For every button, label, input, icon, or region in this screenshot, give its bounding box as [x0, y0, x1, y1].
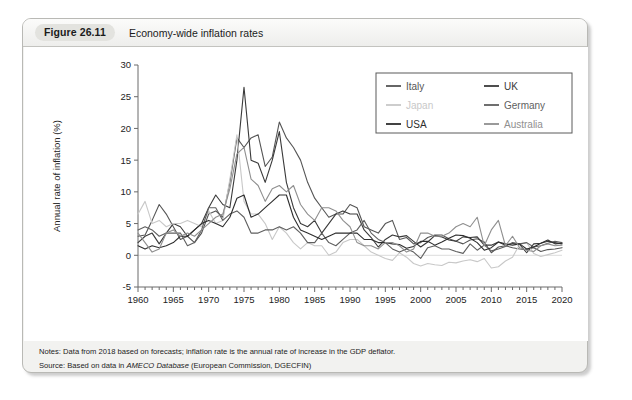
- figure-title: Economy-wide inflation rates: [129, 27, 263, 39]
- figure-number-label: Figure 26.11: [35, 24, 115, 41]
- x-tick-label: 2005: [445, 294, 466, 305]
- x-tick-label: 1995: [375, 294, 396, 305]
- series-line-japan: [138, 135, 562, 268]
- notes-text: Data from 2018 based on forecasts; infla…: [63, 347, 395, 356]
- figure-card: Figure 26.11 Economy-wide inflation rate…: [22, 18, 588, 373]
- source-database-name: AMECO Database: [126, 361, 188, 370]
- x-tick-label: 1960: [127, 294, 148, 305]
- figure-header: Figure 26.11 Economy-wide inflation rate…: [23, 19, 587, 47]
- x-tick-label: 1985: [304, 294, 325, 305]
- y-tick-label: 25: [120, 91, 131, 102]
- inflation-line-chart: -505101520253019601965197019751980198519…: [24, 47, 588, 341]
- source-pre-text: Based on data in: [67, 361, 124, 370]
- x-tick-label: 2010: [481, 294, 502, 305]
- y-axis-title: Annual rate of inflation (%): [51, 120, 62, 232]
- notes-prefix: Notes:: [39, 347, 61, 356]
- legend-label-australia: Australia: [504, 119, 543, 130]
- x-tick-label: 1975: [233, 294, 254, 305]
- x-tick-label: 1980: [269, 294, 290, 305]
- y-tick-label: 10: [120, 186, 131, 197]
- y-tick-label: 0: [126, 250, 131, 261]
- source-prefix: Source:: [39, 361, 65, 370]
- x-tick-label: 1970: [198, 294, 219, 305]
- chart-panel: -505101520253019601965197019751980198519…: [24, 47, 588, 341]
- legend-label-uk: UK: [504, 81, 518, 92]
- x-tick-label: 1965: [163, 294, 184, 305]
- figure-notes: Notes: Data from 2018 based on forecasts…: [23, 341, 587, 372]
- y-tick-label: 15: [120, 155, 131, 166]
- x-tick-label: 2000: [410, 294, 431, 305]
- screenshot-root: Figure 26.11 Economy-wide inflation rate…: [0, 0, 632, 400]
- y-tick-label: 30: [120, 59, 131, 70]
- y-tick-label: 5: [126, 218, 131, 229]
- series-line-australia: [138, 147, 562, 252]
- notes-line: Notes: Data from 2018 based on forecasts…: [39, 345, 571, 359]
- legend-label-usa: USA: [406, 119, 427, 130]
- source-line: Source: Based on data in AMECO Database …: [39, 359, 571, 373]
- x-tick-label: 2015: [516, 294, 537, 305]
- legend-label-japan: Japan: [406, 100, 433, 111]
- legend-label-italy: Italy: [406, 81, 424, 92]
- legend-label-germany: Germany: [504, 100, 545, 111]
- source-post-text: (European Commission, DGECFIN): [191, 361, 311, 370]
- x-tick-label: 1990: [339, 294, 360, 305]
- y-tick-label: 20: [120, 123, 131, 134]
- y-tick-label: -5: [123, 281, 131, 292]
- x-tick-label: 2020: [551, 294, 572, 305]
